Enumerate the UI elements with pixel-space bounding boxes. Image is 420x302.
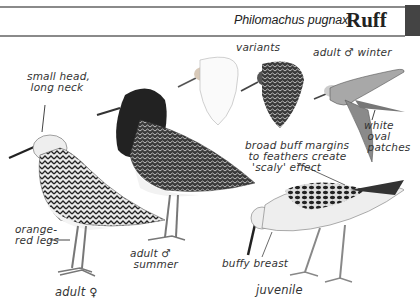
label-small-head: small head, long neck — [27, 71, 90, 93]
label-adult-male-summer: adult ♂ summer — [130, 248, 178, 270]
label-juvenile: juvenile — [256, 285, 303, 296]
variant-head-dark — [241, 62, 304, 128]
label-buffy-breast: buffy breast — [222, 258, 288, 269]
label-adult-male-winter: adult ♂ winter — [313, 47, 392, 58]
label-adult-female: adult ♀ — [55, 287, 98, 298]
label-variants: variants — [236, 42, 280, 53]
label-orange-red-legs: orange- red legs — [15, 224, 59, 246]
label-broad-buff-margins: broad buff margins to feathers create 's… — [245, 140, 349, 173]
variant-head-white — [178, 57, 238, 125]
label-white-oval-patches: white oval patches — [364, 120, 411, 153]
